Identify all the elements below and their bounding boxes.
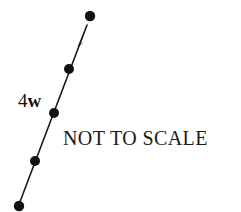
- point-markers-group: [14, 11, 95, 211]
- point-top-detached: [85, 11, 95, 21]
- point-3: [49, 108, 59, 118]
- point-4: [30, 156, 40, 166]
- measure-label-4w: 4w: [18, 91, 41, 110]
- point-bottom: [14, 201, 24, 211]
- not-to-scale-note: NOT TO SCALE: [63, 128, 208, 148]
- measure-variable: w: [28, 90, 42, 111]
- measure-coefficient: 4: [18, 90, 28, 111]
- arrowhead-icon: [78, 23, 88, 47]
- point-2: [64, 64, 74, 74]
- geometry-figure: 4w NOT TO SCALE: [0, 0, 241, 212]
